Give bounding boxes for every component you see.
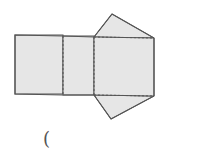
right-rect-face (94, 37, 154, 96)
prism-net-diagram (0, 0, 200, 154)
left-rect-face (15, 35, 63, 94)
middle-rect-face (63, 36, 94, 95)
answer-paren: ( (43, 128, 50, 149)
